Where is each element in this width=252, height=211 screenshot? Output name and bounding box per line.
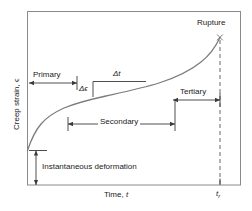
rupture-label: Rupture [197,19,225,27]
tr-tick-sub: r [218,193,220,199]
secondary-stage-label: Secondary [98,118,140,126]
secondary-stage-arrow [68,100,175,131]
creep-curve-figure: Creep strain, ϵ Time, t tr Rupture Prima… [0,0,252,211]
tertiary-stage-label: Tertiary [180,88,206,96]
tr-tick-label: tr [216,190,220,199]
primary-stage-label: Primary [33,71,61,79]
x-axis-label-text: Time, [104,190,126,199]
x-axis-label-var: t [126,190,128,199]
plot-frame [28,12,241,186]
delta-time-label: Δt [113,70,121,78]
instantaneous-deformation-label: Instantaneous deformation [42,163,137,171]
diagram-canvas [0,0,252,211]
x-axis-label: Time, t [104,191,128,199]
rupture-marker-icon [217,35,223,41]
y-axis-label: Creep strain, ϵ [13,78,21,130]
delta-strain-label: Δϵ [79,85,88,93]
